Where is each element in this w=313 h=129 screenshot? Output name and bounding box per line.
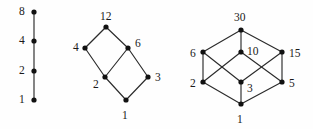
lattice-edge [85, 27, 106, 48]
hasse-diagram-figure: 1248123461212356101530 [0, 0, 313, 129]
lattice-node-1 [31, 97, 36, 102]
lattice-edge [203, 30, 241, 52]
lattice-node-2 [200, 79, 205, 84]
lattice-edge [128, 48, 148, 77]
lattice-node-8 [31, 9, 36, 14]
lattice-node-30 [238, 27, 243, 32]
lattice-node-3 [145, 74, 150, 79]
lattice-edge [106, 27, 128, 48]
lattice-edge [203, 82, 241, 104]
nodes-layer [31, 9, 284, 106]
lattice-node-6 [125, 45, 130, 50]
lattice-edge [241, 30, 282, 52]
lattice-node-2 [102, 74, 107, 79]
lattice-node-6 [200, 49, 205, 54]
lattice-node-1 [238, 101, 243, 106]
lattice-node-3 [238, 79, 243, 84]
lattice-edge [126, 77, 148, 100]
lattice-edge [241, 82, 282, 104]
lattice-node-5 [279, 79, 284, 84]
edges-layer [34, 12, 282, 104]
lattice-node-12 [103, 24, 108, 29]
lattice-node-1 [123, 97, 128, 102]
lattice-edge [85, 48, 105, 77]
lattice-canvas [0, 0, 313, 129]
lattice-edge [105, 48, 128, 77]
lattice-node-4 [82, 45, 87, 50]
lattice-node-10 [238, 49, 243, 54]
lattice-node-2 [31, 68, 36, 73]
lattice-node-15 [279, 49, 284, 54]
lattice-edge [105, 77, 126, 100]
lattice-node-4 [31, 38, 36, 43]
